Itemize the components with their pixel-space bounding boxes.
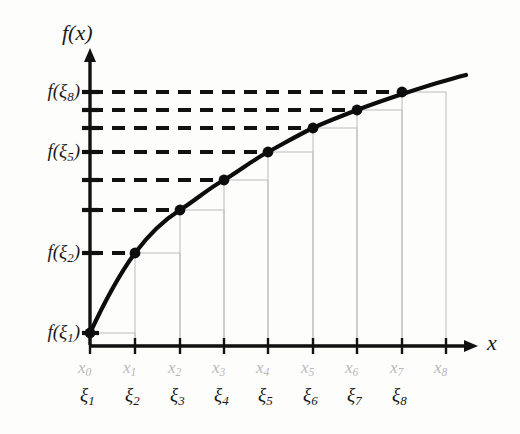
x-node-label: x1 [123, 359, 136, 379]
sample-point-marker [175, 205, 186, 216]
x-axis-arrow [464, 340, 478, 352]
x-node-label: x7 [390, 359, 403, 379]
riemann-rectangle [224, 180, 268, 345]
sample-point-marker [308, 123, 319, 134]
sample-point-label: ξ7 [347, 385, 362, 408]
y-tick-label: f(ξ1) [47, 322, 80, 345]
x-node-label: x5 [301, 359, 314, 379]
function-curve [90, 75, 466, 333]
y-tick-label: f(ξ5) [47, 141, 80, 164]
sample-point-label: ξ3 [170, 385, 185, 408]
riemann-sum-figure: f(x) x f(ξ8)f(ξ5)f(ξ2)f(ξ1) x0x1x2x3x4x5… [0, 0, 520, 434]
x-node-label: x6 [345, 359, 358, 379]
points-layer [85, 87, 408, 339]
sample-point-label: ξ6 [303, 385, 318, 408]
sample-point-marker [219, 175, 230, 186]
sample-point-marker [352, 105, 363, 116]
riemann-rectangle [180, 210, 224, 345]
sample-point-label: ξ2 [125, 385, 140, 408]
sample-point-marker [130, 248, 141, 259]
curve-layer [90, 75, 466, 333]
sample-point-label: ξ1 [80, 385, 95, 408]
sample-point-marker [85, 328, 96, 339]
x-node-label: x3 [212, 359, 225, 379]
sample-point-label: ξ8 [392, 385, 407, 408]
sample-point-marker [263, 147, 274, 158]
riemann-rectangle [268, 152, 313, 345]
sample-point-marker [397, 87, 408, 98]
riemann-rectangle [357, 110, 402, 345]
x-node-label: x2 [168, 359, 181, 379]
sample-point-label: ξ5 [258, 385, 273, 408]
sample-point-label: ξ4 [214, 385, 229, 408]
riemann-rectangle [402, 92, 446, 345]
riemann-rectangle [135, 253, 180, 345]
x-axis-label: x [487, 332, 497, 354]
y-tick-label: f(ξ8) [47, 81, 80, 104]
x-node-label: x8 [434, 359, 447, 379]
y-axis-label: f(x) [62, 22, 93, 44]
y-tick-label: f(ξ2) [47, 242, 80, 265]
x-node-label: x4 [256, 359, 269, 379]
x-node-label: x0 [78, 359, 91, 379]
riemann-rectangle [313, 128, 357, 345]
y-axis-arrow [84, 48, 96, 62]
